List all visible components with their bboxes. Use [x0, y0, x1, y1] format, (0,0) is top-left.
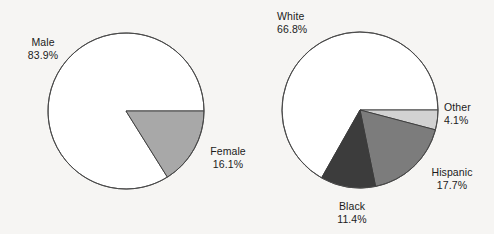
- race-pie-group: [282, 32, 438, 188]
- label-female-name: Female: [196, 145, 260, 158]
- label-black-pct: 11.4%: [322, 213, 382, 226]
- label-hispanic-name: Hispanic: [414, 166, 490, 179]
- label-other: Other 4.1%: [444, 101, 471, 126]
- label-white-pct: 66.8%: [277, 23, 307, 36]
- label-other-pct: 4.1%: [444, 114, 471, 127]
- label-hispanic-pct: 17.7%: [414, 179, 490, 192]
- label-black: Black 11.4%: [322, 200, 382, 225]
- label-male-name: Male: [10, 36, 76, 49]
- label-white: White 66.8%: [277, 10, 307, 35]
- label-female-pct: 16.1%: [196, 158, 260, 171]
- figure-two-pie-charts: Male 83.9% Female 16.1% White 66.8% Othe…: [0, 0, 494, 234]
- label-black-name: Black: [322, 200, 382, 213]
- label-male: Male 83.9%: [10, 36, 76, 61]
- label-male-pct: 83.9%: [10, 49, 76, 62]
- label-other-name: Other: [444, 101, 471, 114]
- label-female: Female 16.1%: [196, 145, 260, 170]
- label-white-name: White: [277, 10, 307, 23]
- label-hispanic: Hispanic 17.7%: [414, 166, 490, 191]
